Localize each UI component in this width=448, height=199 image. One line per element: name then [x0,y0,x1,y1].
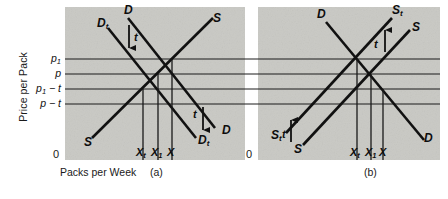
price-tick-p-minus-t: p − t [40,98,61,110]
panel-b-label-supply-bottom: S [294,144,302,156]
panel-a-label-demand-shifted-bottom: Dt [198,135,209,147]
panel-a-label-supply-bottom: S [84,137,92,149]
panel-b-qlabel-xt: Xt [350,146,360,158]
price-tick-labels: p1 p p1 − t p − t [0,0,64,199]
panel-b-caption: (b) [364,166,377,178]
panel-a-label-demand-bottom: D [222,125,231,137]
price-tick-p: p [55,68,61,80]
panel-b-origin-label: 0 [246,148,252,160]
x-axis-title: Packs per Week [60,166,136,178]
price-tick-p1-minus-t: p1 − t [36,83,61,95]
panel-b-tax-label-bottom: t [282,128,286,140]
panel-b-label-supply-shifted-top: St [392,5,403,17]
panel-a-caption: (a) [150,166,163,178]
panel-b-qlabel-x1: X1 [365,146,377,158]
panel-a-qlabel-x1: X1 [151,146,163,158]
panel-a-label-demand-shifted-top: Dt [97,18,108,30]
panel-a-qlabel-x: X [167,146,174,158]
tax-incidence-figure: Price per Pack p1 p p1 − t p − t 0 0 Pac… [0,0,448,199]
panel-b-label-demand-top: D [317,9,326,21]
panel-b-label-demand-bottom: D [424,133,433,145]
panel-a-label-demand-top: D [124,5,133,17]
price-tick-p1: p1 [51,53,61,65]
panel-a-origin-label: 0 [53,148,59,160]
panel-b-label-supply-top: S [412,22,420,34]
panel-b-label-supply-shifted-bottom: St [271,130,282,142]
panel-a-qlabel-xt: Xt [136,146,146,158]
panel-b-tax-label-top: t [374,38,378,50]
panel-a-label-supply-top: S [213,13,221,25]
panel-b-qlabel-x: X [379,146,386,158]
panel-a-tax-label-bottom: t [193,108,197,120]
panel-a-tax-label-top: t [134,31,138,43]
